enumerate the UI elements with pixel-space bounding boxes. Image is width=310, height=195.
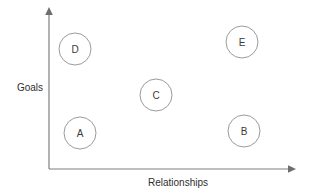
node-b[interactable]: B: [228, 115, 260, 147]
x-axis-label: Relationships: [148, 177, 208, 188]
node-c[interactable]: C: [140, 79, 172, 111]
y-axis-label: Goals: [17, 82, 43, 93]
node-a-label: A: [77, 128, 84, 139]
node-a[interactable]: A: [64, 117, 96, 149]
node-e-label: E: [239, 37, 246, 48]
node-c-label: C: [152, 90, 159, 101]
node-b-label: B: [241, 126, 248, 137]
node-d-label: D: [71, 44, 78, 55]
x-axis-group: [49, 165, 296, 173]
positioning-grid-svg: Goals Relationships D E C A B: [0, 0, 310, 195]
arrow-right-icon: [288, 165, 296, 173]
node-e[interactable]: E: [226, 26, 258, 58]
node-d[interactable]: D: [59, 33, 91, 65]
y-axis-group: [45, 7, 53, 169]
arrow-up-icon: [45, 7, 53, 15]
diagram-canvas: Goals Relationships D E C A B: [0, 0, 310, 195]
